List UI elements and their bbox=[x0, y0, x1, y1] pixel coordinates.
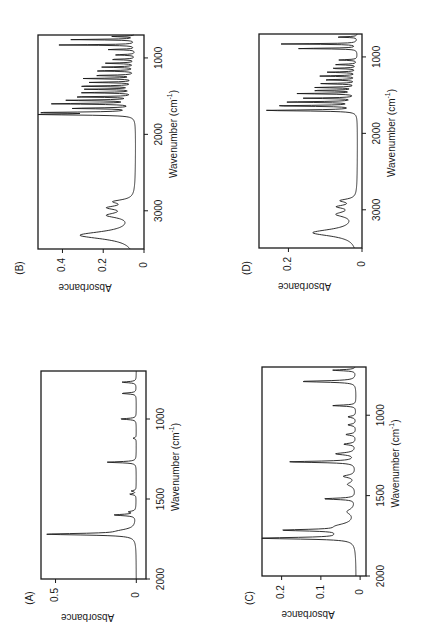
spectra-figure: 300020001000Wavenumber (cm-1)00.20.4Abso… bbox=[0, 0, 422, 639]
x-tick-label: 2000 bbox=[155, 567, 166, 590]
y-tick-label: 0.2 bbox=[97, 258, 108, 272]
x-tick-label: 2000 bbox=[375, 564, 386, 587]
y-axis-label: Absorbance bbox=[60, 612, 114, 623]
y-tick-label: 0.1 bbox=[315, 585, 326, 599]
y-tick-label: 0 bbox=[354, 589, 365, 595]
x-axis-label: Wavenumber (cm-1) bbox=[384, 89, 396, 177]
x-axis-label: Wavenumber (cm-1) bbox=[168, 423, 180, 511]
x-tick-label: 1500 bbox=[375, 484, 386, 507]
x-axis-label: Wavenumber (cm-1) bbox=[166, 90, 178, 178]
plot-frame bbox=[38, 35, 144, 249]
panel-b: 300020001000Wavenumber (cm-1)00.20.4Abso… bbox=[14, 35, 179, 293]
panel-label: (D) bbox=[241, 261, 252, 275]
panel-label: (A) bbox=[24, 591, 35, 604]
y-tick-label: 0 bbox=[138, 262, 149, 268]
x-tick-label: 3000 bbox=[371, 198, 382, 221]
y-tick-label: 0.4 bbox=[56, 258, 67, 272]
y-tick-label: 0.5 bbox=[49, 588, 60, 602]
y-axis-label: Absorbance bbox=[58, 282, 112, 293]
x-tick-label: 2000 bbox=[153, 123, 164, 146]
panel-label: (C) bbox=[244, 591, 255, 605]
x-tick-label: 1000 bbox=[371, 45, 382, 68]
x-tick-label: 1500 bbox=[155, 487, 166, 510]
y-tick-label: 0 bbox=[130, 592, 141, 598]
spectrum-line bbox=[266, 34, 357, 248]
x-tick-label: 1000 bbox=[375, 404, 386, 427]
x-tick-label: 2000 bbox=[371, 122, 382, 145]
panel-a: 200015001000Wavenumber (cm-1)00.5Absorba… bbox=[24, 371, 181, 623]
panel-c: 200015001000Wavenumber (cm-1)00.10.2Abso… bbox=[244, 367, 401, 620]
spectrum-line bbox=[47, 371, 137, 579]
panel-d: 300020001000Wavenumber (cm-1)00.2Absorba… bbox=[241, 34, 397, 292]
x-tick-label: 3000 bbox=[153, 199, 164, 222]
plot-frame bbox=[259, 34, 362, 248]
x-tick-label: 1000 bbox=[153, 46, 164, 69]
spectrum-line bbox=[38, 35, 135, 249]
x-axis-label: Wavenumber (cm-1) bbox=[388, 419, 400, 507]
x-tick-label: 1000 bbox=[155, 407, 166, 430]
plot-frame bbox=[41, 371, 146, 579]
y-axis-label: Absorbance bbox=[277, 281, 331, 292]
plot-frame bbox=[262, 367, 366, 576]
panel-label: (B) bbox=[14, 261, 25, 274]
spectrum-line bbox=[262, 367, 356, 576]
y-tick-label: 0.2 bbox=[282, 257, 293, 271]
y-axis-label: Absorbance bbox=[281, 609, 335, 620]
y-tick-label: 0 bbox=[356, 261, 367, 267]
y-tick-label: 0.2 bbox=[275, 585, 286, 599]
